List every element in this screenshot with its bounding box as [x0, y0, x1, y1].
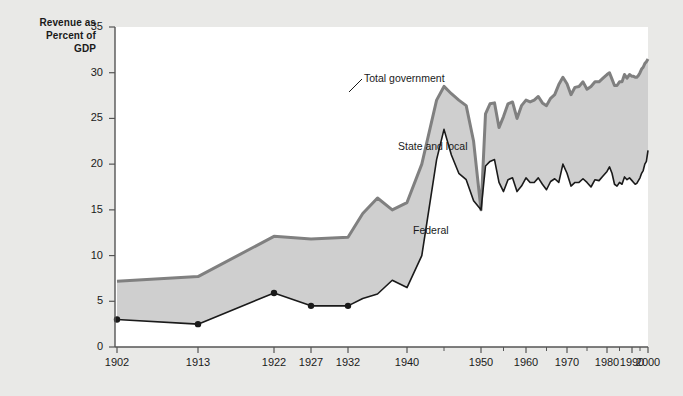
x-axis-tick-label: 1940 [395, 356, 419, 368]
annotation-federal: Federal [413, 224, 449, 236]
federal-data-marker [271, 290, 277, 296]
y-axis-tick-label: 30 [77, 66, 103, 78]
x-axis-tick-label: 1922 [262, 356, 286, 368]
y-axis-tick-label: 35 [77, 20, 103, 32]
y-axis-tick-label: 20 [77, 157, 103, 169]
x-axis-tick-label: 1960 [514, 356, 538, 368]
y-axis-tick-label: 5 [77, 294, 103, 306]
y-axis-tick-label: 15 [77, 203, 103, 215]
x-axis-tick-label: 1927 [299, 356, 323, 368]
x-axis-tick-label: 1913 [186, 356, 210, 368]
x-axis-tick-label: 1970 [555, 356, 579, 368]
x-axis-tick-label: 1902 [105, 356, 129, 368]
y-axis-tick-label: 25 [77, 111, 103, 123]
chart-svg [0, 0, 683, 396]
chart-root: Revenue as Percent of GDP 05101520253035… [0, 0, 683, 396]
federal-data-marker [308, 303, 314, 309]
federal-data-marker [195, 321, 201, 327]
x-axis-tick-label: 2000 [636, 356, 660, 368]
annotation-total-government: Total government [364, 72, 445, 84]
x-axis-tick-label: 1950 [469, 356, 493, 368]
x-axis-tick-label: 1932 [336, 356, 360, 368]
y-axis-tick-label: 0 [77, 340, 103, 352]
y-axis-tick-label: 10 [77, 249, 103, 261]
federal-data-marker [345, 303, 351, 309]
annotation-state-and-local: State and local [398, 140, 467, 152]
x-axis-ticks [117, 347, 648, 353]
y-axis-ticks [109, 27, 115, 347]
x-axis-tick-label: 1980 [595, 356, 619, 368]
